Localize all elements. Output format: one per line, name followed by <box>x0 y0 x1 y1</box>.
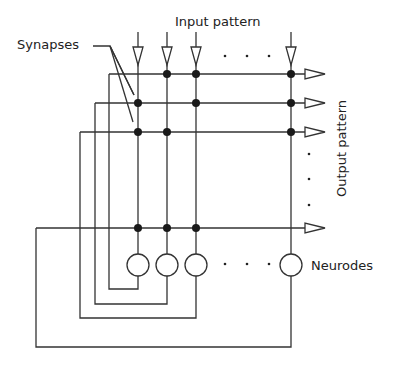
output-pattern-label: Output pattern <box>334 100 349 197</box>
associative-memory-diagram: Input pattern Synapses Neurodes Output p… <box>0 0 396 367</box>
synapse-dots <box>134 70 295 232</box>
input-pattern-label: Input pattern <box>175 14 261 29</box>
diagram-canvas: Input pattern Synapses Neurodes Output p… <box>0 0 396 367</box>
ellipsis-dots <box>224 55 311 266</box>
synapses-label: Synapses <box>17 37 79 52</box>
neurodes-label: Neurodes <box>311 258 373 273</box>
input-arrows <box>133 32 296 275</box>
neurodes <box>127 254 302 276</box>
feedback-loops <box>36 74 291 347</box>
